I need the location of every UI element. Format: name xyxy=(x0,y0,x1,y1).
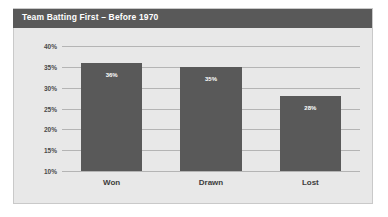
page-title: Team Batting First – Before 1970 xyxy=(22,12,158,22)
y-axis-tick-label: 35% xyxy=(23,63,57,70)
y-axis-tick-label: 15% xyxy=(23,147,57,154)
bar-lost[interactable]: 28% xyxy=(280,96,342,171)
x-axis-category-lost: Lost xyxy=(261,178,360,187)
gridline xyxy=(62,46,360,47)
y-axis-tick-label: 30% xyxy=(23,84,57,91)
bar-value-label: 35% xyxy=(180,76,242,82)
x-axis: WonDrawnLost xyxy=(62,174,360,192)
y-axis-tick-label: 40% xyxy=(23,43,57,50)
plot-area: 36%35%28% xyxy=(62,46,360,171)
y-axis-tick-label: 25% xyxy=(23,105,57,112)
bar-won[interactable]: 36% xyxy=(81,63,143,171)
bar-value-label: 36% xyxy=(81,72,143,78)
x-axis-category-drawn: Drawn xyxy=(161,178,260,187)
bar-value-label: 28% xyxy=(280,105,342,111)
chart-screenshot: Team Batting First – Before 1970 40%35%3… xyxy=(0,0,388,217)
bar-chart: 40%35%30%25%20%15%10% 36%35%28% WonDrawn… xyxy=(13,28,373,204)
gridline xyxy=(62,171,360,172)
y-axis: 40%35%30%25%20%15%10% xyxy=(13,46,57,171)
chart-title-bar: Team Batting First – Before 1970 xyxy=(13,9,372,28)
x-axis-category-won: Won xyxy=(62,178,161,187)
y-axis-tick-label: 10% xyxy=(23,168,57,175)
bar-drawn[interactable]: 35% xyxy=(180,67,242,171)
y-axis-tick-label: 20% xyxy=(23,126,57,133)
